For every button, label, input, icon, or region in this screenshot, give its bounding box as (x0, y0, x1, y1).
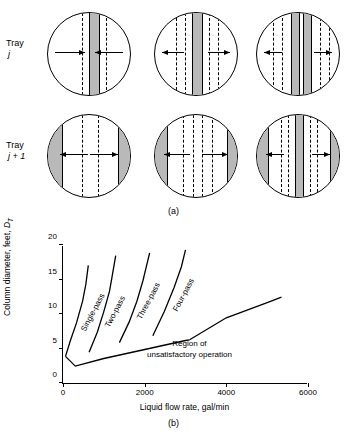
x-tick (308, 383, 309, 387)
y-axis-symbol-subscript: T (7, 218, 14, 222)
arrow-icon (160, 48, 232, 57)
y-tick-label: 20 (48, 232, 57, 241)
y-tick-label: 10 (48, 301, 57, 310)
panel-a-caption: (a) (0, 206, 347, 216)
panel-b-caption: (b) (0, 418, 347, 428)
flow-arrows-tray-j1-multi (262, 150, 334, 159)
row-label-tray-j1-main: Tray (6, 140, 24, 150)
flow-arrows-tray-j1-single (58, 150, 120, 159)
chart-panel: Column diameter, feet, DT 0 5 10 15 20 0… (0, 232, 347, 437)
x-tick-label: 4000 (217, 388, 235, 397)
row-label-tray-j-sub: j (6, 49, 24, 60)
row-label-tray-j1: Tray j + 1 (6, 140, 25, 162)
arrow-icon (262, 48, 334, 57)
flow-arrows-tray-j1-two (162, 150, 230, 159)
region-label-line2: unsatisfactory operation (147, 350, 232, 359)
y-tick (59, 244, 63, 245)
row-label-tray-j-main: Tray (6, 38, 24, 48)
row-label-tray-j: Tray j (6, 38, 24, 60)
x-axis-title: Liquid flow rate, gal/min (62, 402, 307, 412)
y-tick-label: 0 (53, 370, 57, 379)
arrow-icon (58, 150, 120, 159)
y-axis-title-text: Column diameter, feet, (2, 228, 12, 316)
arrow-icon (162, 150, 230, 159)
plot-area: 0 5 10 15 20 0 2000 4000 6000 (62, 246, 307, 384)
flow-arrows-tray-j-single (55, 48, 123, 57)
y-tick-label: 5 (53, 335, 57, 344)
x-tick-label: 0 (61, 388, 65, 397)
arrow-icon (262, 150, 334, 159)
y-tick-label: 15 (48, 266, 57, 275)
curve-upper-limit (190, 297, 282, 340)
chart-curves (63, 246, 308, 384)
figure-container: Tray j Tray j + 1 (0, 0, 347, 437)
arrow-icon (55, 48, 123, 57)
y-axis-title: Column diameter, feet, DT (2, 218, 14, 316)
curve-single-pass (66, 265, 89, 356)
x-tick-label: 6000 (299, 388, 317, 397)
x-tick-label: 2000 (136, 388, 154, 397)
row-label-tray-j1-sub: j + 1 (6, 151, 25, 162)
region-label-line1: Region of (172, 339, 206, 348)
flow-arrows-tray-j-two (160, 48, 232, 57)
region-label: Region of unsatisfactory operation (147, 338, 232, 360)
y-axis-symbol: D (2, 222, 12, 228)
flow-arrows-tray-j-multi (262, 48, 334, 57)
tray-pass-diagram-panel: Tray j Tray j + 1 (0, 0, 347, 228)
